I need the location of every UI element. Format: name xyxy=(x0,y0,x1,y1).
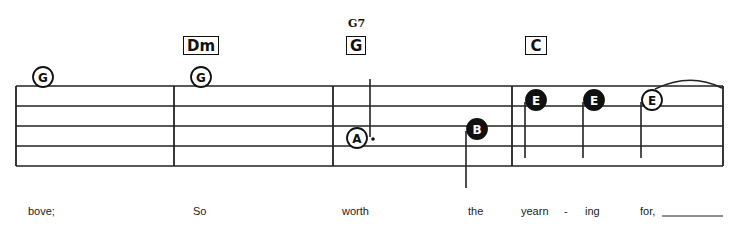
note-letter: G xyxy=(196,71,206,85)
music-staff: GGABEEE xyxy=(0,0,736,232)
note-letter: A xyxy=(352,132,362,146)
lyric-syllable: yearn xyxy=(521,205,549,217)
tie-arc xyxy=(655,80,722,89)
chord-box: C xyxy=(525,36,547,55)
chord-box: Dm xyxy=(183,36,219,55)
note-letter: E xyxy=(590,94,598,108)
note-letter: E xyxy=(532,94,540,108)
chord-box: G xyxy=(346,36,366,55)
lyric-syllable: worth xyxy=(342,205,369,217)
note-letter: E xyxy=(648,94,656,108)
lyric-syllable: the xyxy=(468,205,483,217)
lyric-syllable: for, xyxy=(640,205,655,217)
lyric-syllable: bove; xyxy=(28,205,55,217)
lyric-syllable: - xyxy=(564,205,568,217)
lyric-syllable: So xyxy=(193,205,206,217)
note-letter: G xyxy=(38,71,48,85)
augmentation-dot xyxy=(371,137,375,141)
note-letter: B xyxy=(472,123,481,137)
alternate-chord-label: G7 xyxy=(348,17,365,30)
lyric-syllable: ing xyxy=(585,205,600,217)
